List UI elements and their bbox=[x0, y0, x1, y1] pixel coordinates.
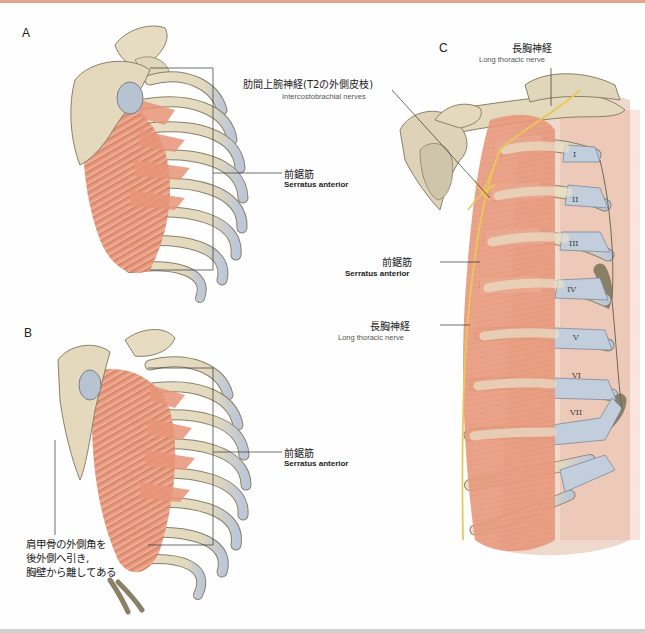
bottom-rule bbox=[0, 629, 645, 633]
rib-numeral-1: I bbox=[573, 150, 576, 159]
rib-numeral-6: VI bbox=[571, 371, 581, 380]
rib-numeral-4: IV bbox=[567, 285, 576, 294]
rib-numerals: I II III IV V VI VII bbox=[0, 0, 645, 633]
rib-numeral-5: V bbox=[572, 333, 579, 342]
rib-numeral-7: VII bbox=[569, 408, 582, 417]
rib-numeral-3: III bbox=[569, 239, 578, 248]
rib-numeral-2: II bbox=[572, 195, 578, 204]
